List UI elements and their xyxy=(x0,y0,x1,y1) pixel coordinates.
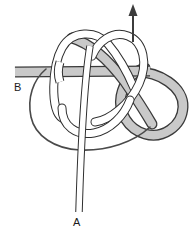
knot-illustration xyxy=(0,0,195,235)
knot-diagram-figure: A B xyxy=(0,0,195,235)
label-rope-a: A xyxy=(73,217,80,228)
white-over-band-left xyxy=(59,62,61,82)
label-rope-b: B xyxy=(14,82,21,93)
